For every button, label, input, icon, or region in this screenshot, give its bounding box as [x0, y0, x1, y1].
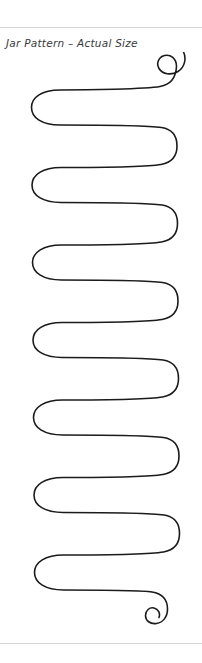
- pattern-illustration: [0, 52, 202, 637]
- page-title: Jar Pattern – Actual Size: [6, 36, 138, 50]
- serpentine-scroll-path: [32, 52, 185, 624]
- serpentine-pattern-svg: [0, 52, 202, 637]
- bottom-divider: [0, 643, 202, 644]
- pattern-page: Jar Pattern – Actual Size: [0, 0, 202, 663]
- top-divider: [0, 27, 202, 28]
